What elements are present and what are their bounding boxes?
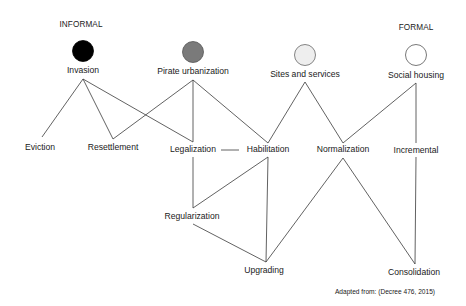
edge-regularization-upgrading — [193, 224, 266, 262]
node-social-housing: Social housing — [388, 70, 444, 80]
sites-and-services-circle-icon — [295, 45, 316, 66]
edge-social-normalization — [343, 83, 416, 143]
node-normalization: Normalization — [317, 144, 370, 154]
node-incremental: Incremental — [394, 145, 439, 155]
node-consolidation: Consolidation — [388, 267, 440, 277]
node-legalization: Legalization — [170, 144, 216, 154]
node-invasion: Invasion — [67, 65, 99, 75]
node-resettlement: Resettlement — [88, 142, 139, 152]
node-sites-and-services: Sites and services — [270, 69, 340, 79]
edge-habilitation-upgrading — [266, 157, 268, 262]
edge-invasion-legalization — [83, 79, 193, 142]
edge-pirate-habilitation — [193, 80, 268, 143]
pirate-urbanization-circle-icon — [183, 42, 204, 63]
node-pirate-urbanization: Pirate urbanization — [157, 66, 229, 76]
invasion-circle-icon — [73, 41, 94, 62]
node-eviction: Eviction — [25, 142, 55, 152]
housing-process-diagram: INFORMAL FORMAL Invasion Pirate urbaniza… — [0, 0, 466, 306]
node-habilitation: Habilitation — [247, 144, 290, 154]
formal-header: FORMAL — [399, 23, 434, 32]
source-caption: Adapted from: (Decree 476, 2015) — [335, 288, 435, 296]
social-housing-circle-icon — [406, 45, 427, 66]
edge-sites-habilitation — [268, 82, 305, 143]
informal-header: INFORMAL — [59, 20, 102, 29]
edge-invasion-eviction — [42, 79, 83, 137]
edges — [42, 79, 416, 264]
edge-habilitation-regularization — [193, 157, 268, 208]
node-upgrading: Upgrading — [244, 265, 284, 275]
edge-pirate-resettlement — [113, 80, 193, 139]
edge-normalization-consolidation — [343, 158, 415, 264]
edge-incremental-consolidation — [415, 157, 416, 264]
edge-normalization-upgrading — [266, 158, 343, 262]
node-regularization: Regularization — [165, 211, 220, 221]
edge-sites-normalization — [305, 82, 343, 143]
